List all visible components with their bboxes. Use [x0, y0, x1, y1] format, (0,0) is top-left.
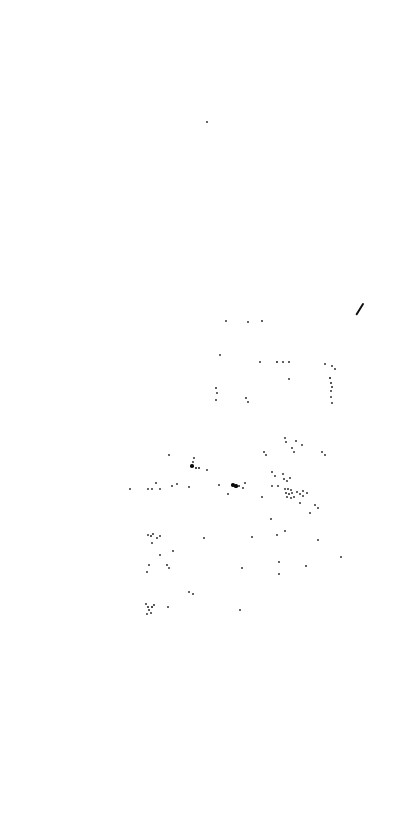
- speck: [270, 518, 272, 520]
- speck: [151, 488, 153, 490]
- speck: [156, 537, 158, 539]
- speck: [245, 397, 247, 399]
- speck: [286, 496, 288, 498]
- speck: [215, 387, 217, 389]
- speck: [282, 473, 284, 475]
- speck: [188, 591, 190, 593]
- speck: [331, 365, 333, 367]
- speck: [168, 454, 170, 456]
- speck: [305, 565, 307, 567]
- speck: [166, 564, 168, 566]
- speck: [247, 321, 249, 323]
- speckle-noise-region: [135, 305, 365, 640]
- speck: [276, 534, 278, 536]
- speck: [284, 530, 286, 532]
- speck: [203, 537, 205, 539]
- speck: [247, 401, 249, 403]
- speck: [330, 396, 332, 398]
- speck: [261, 496, 263, 498]
- speck: [288, 378, 290, 380]
- speck: [171, 485, 173, 487]
- speck: [288, 361, 290, 363]
- speck: [148, 564, 150, 566]
- speck: [288, 493, 290, 495]
- speck: [192, 461, 194, 463]
- speck: [299, 493, 301, 495]
- speck: [147, 534, 149, 536]
- speck: [278, 561, 280, 563]
- speck: [190, 464, 194, 468]
- speck: [188, 486, 190, 488]
- speck: [331, 386, 333, 388]
- speck: [295, 440, 297, 442]
- speck: [146, 613, 148, 615]
- speck: [147, 488, 149, 490]
- speck: [293, 496, 295, 498]
- speck: [195, 467, 198, 470]
- speck: [285, 492, 287, 494]
- speck: [321, 451, 323, 453]
- speck: [150, 535, 153, 538]
- speck: [151, 542, 153, 544]
- speck: [330, 390, 332, 392]
- speck: [330, 382, 333, 385]
- speck: [331, 402, 333, 404]
- speck: [276, 361, 279, 364]
- speck: [291, 492, 293, 494]
- speck: [239, 609, 241, 611]
- speck: [159, 554, 161, 556]
- speck: [193, 457, 195, 459]
- speck: [271, 485, 273, 487]
- speck: [172, 550, 174, 552]
- speck: [216, 392, 218, 394]
- speck: [148, 609, 150, 611]
- speck: [301, 444, 303, 446]
- speck: [284, 488, 286, 490]
- speck: [167, 606, 169, 608]
- scanned-page: [0, 0, 411, 822]
- speck: [287, 488, 289, 490]
- speck: [278, 573, 280, 575]
- speck: [289, 477, 291, 479]
- speck: [317, 539, 319, 541]
- speck: [206, 121, 208, 123]
- speck: [334, 368, 336, 370]
- diagonal-stroke-mark: [355, 303, 364, 316]
- speck: [283, 478, 285, 480]
- speck: [299, 502, 301, 504]
- speck: [198, 467, 201, 470]
- speck: [146, 571, 148, 573]
- speck: [314, 504, 316, 506]
- speck: [251, 536, 253, 538]
- speck: [309, 512, 311, 514]
- speck: [324, 454, 326, 456]
- speck: [293, 451, 295, 453]
- speck: [155, 482, 157, 484]
- speck: [215, 399, 217, 401]
- speck: [284, 437, 286, 439]
- speck: [150, 612, 152, 614]
- speck: [290, 489, 292, 491]
- speck: [145, 603, 147, 605]
- speck: [227, 493, 229, 495]
- speck: [291, 447, 293, 449]
- speck: [302, 490, 304, 492]
- speck: [153, 604, 155, 606]
- speck: [261, 320, 263, 322]
- speck: [340, 556, 342, 558]
- speck: [259, 361, 261, 363]
- speck: [147, 606, 150, 609]
- speck: [324, 363, 326, 365]
- speck: [192, 593, 194, 595]
- speck: [219, 354, 221, 356]
- speck: [152, 533, 154, 535]
- speck: [282, 361, 284, 363]
- speck: [225, 320, 227, 322]
- speck: [159, 535, 161, 537]
- speck: [296, 491, 298, 493]
- speck: [206, 469, 208, 471]
- speck: [176, 483, 178, 485]
- speck: [285, 441, 287, 443]
- speck: [277, 485, 279, 487]
- speck: [290, 497, 292, 499]
